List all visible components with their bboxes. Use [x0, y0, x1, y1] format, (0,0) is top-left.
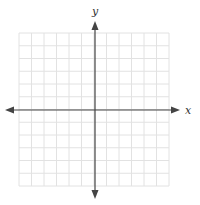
y-axis-up-arrow-icon — [92, 21, 99, 30]
x-axis-right-arrow-icon — [171, 107, 180, 114]
x-axis-left-arrow-icon — [5, 107, 14, 114]
y-axis-down-arrow-icon — [92, 190, 99, 199]
coordinate-plane: x y — [0, 0, 200, 205]
y-axis-label: y — [91, 5, 99, 18]
x-axis-label: x — [185, 104, 192, 117]
